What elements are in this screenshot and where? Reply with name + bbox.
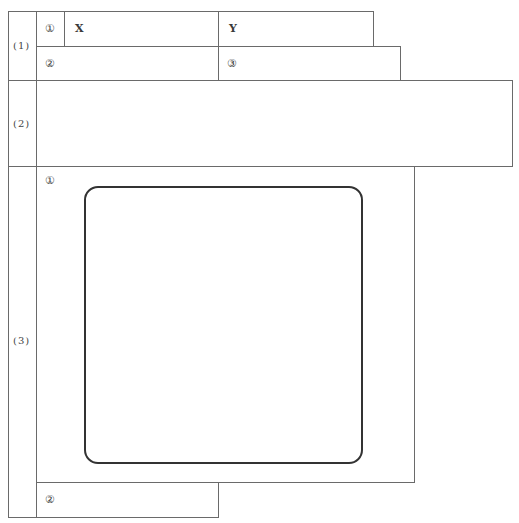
field-x[interactable]: X xyxy=(65,12,217,46)
section-3-label: (3) xyxy=(13,335,30,346)
footer-marker-2: ② xyxy=(45,494,55,506)
divider xyxy=(36,11,37,518)
field-3[interactable]: ③ xyxy=(219,47,400,80)
divider xyxy=(373,11,374,46)
marker-3: ③ xyxy=(227,58,237,70)
marker-2: ② xyxy=(45,58,55,70)
divider xyxy=(8,517,219,518)
field-x-label: X xyxy=(75,23,84,35)
divider xyxy=(400,46,401,80)
footer-field[interactable]: ② xyxy=(37,483,218,517)
field-y-label: Y xyxy=(229,23,237,35)
rounded-frame xyxy=(84,186,363,464)
divider xyxy=(414,166,415,482)
field-y[interactable]: Y xyxy=(219,12,373,46)
marker-1: ① xyxy=(45,23,55,35)
section-2-label: (2) xyxy=(13,118,30,129)
section-2-field[interactable] xyxy=(37,81,512,166)
divider xyxy=(218,482,219,517)
drawing-marker-1: ① xyxy=(45,175,55,187)
divider xyxy=(8,11,9,518)
section-1-label: (1) xyxy=(13,40,30,51)
field-2[interactable]: ② xyxy=(37,47,218,80)
divider xyxy=(512,80,513,166)
